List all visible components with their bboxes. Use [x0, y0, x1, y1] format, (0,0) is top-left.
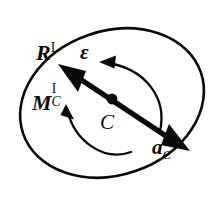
center-of-mass-point [107, 94, 118, 105]
label-moment-about-c: MIC [32, 88, 63, 114]
label-angular-acceleration: ε [80, 42, 89, 63]
label-acceleration-base: a [152, 135, 163, 159]
label-acceleration-subscript: C [163, 147, 172, 162]
label-center-point: C [100, 112, 114, 133]
label-resultant-force: RI [36, 42, 55, 64]
label-angular-acceleration-base: ε [80, 40, 89, 64]
label-moment-base: M [32, 90, 52, 115]
label-moment-indices: IC [52, 88, 63, 110]
label-acceleration-of-c: aC [152, 137, 171, 158]
rigid-body-diagram: RI ε MIC C aC [0, 0, 224, 209]
label-resultant-force-superscript: I [51, 40, 56, 55]
axis-shaft [74, 75, 172, 140]
angular-acceleration-arrowhead [99, 56, 116, 69]
label-resultant-force-base: R [36, 40, 51, 65]
label-moment-subscript: C [52, 95, 61, 109]
label-center-point-base: C [100, 110, 114, 134]
